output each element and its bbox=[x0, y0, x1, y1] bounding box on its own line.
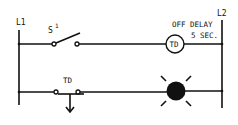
td-timed-contact: TD bbox=[54, 76, 84, 112]
rung-1: S 1 TD OFF DELAY 5 SEC. bbox=[18, 20, 224, 53]
right-rail: L2 bbox=[217, 9, 227, 108]
switch-s1: S 1 bbox=[48, 22, 80, 46]
switch-superscript: 1 bbox=[55, 22, 59, 29]
coil-note-line1: OFF DELAY bbox=[172, 20, 213, 29]
left-rail-label: L1 bbox=[16, 18, 26, 27]
switch-label: S bbox=[48, 26, 53, 35]
rung-2: TD bbox=[18, 76, 224, 112]
td-coil: TD bbox=[166, 35, 184, 53]
right-rail-label: L2 bbox=[217, 9, 227, 18]
coil-note-line2: 5 SEC. bbox=[191, 31, 218, 40]
ladder-diagram: L1 L2 S 1 TD OFF DELAY 5 SEC. bbox=[0, 0, 238, 125]
contact-label: TD bbox=[63, 76, 73, 85]
coil-label: TD bbox=[170, 40, 180, 49]
